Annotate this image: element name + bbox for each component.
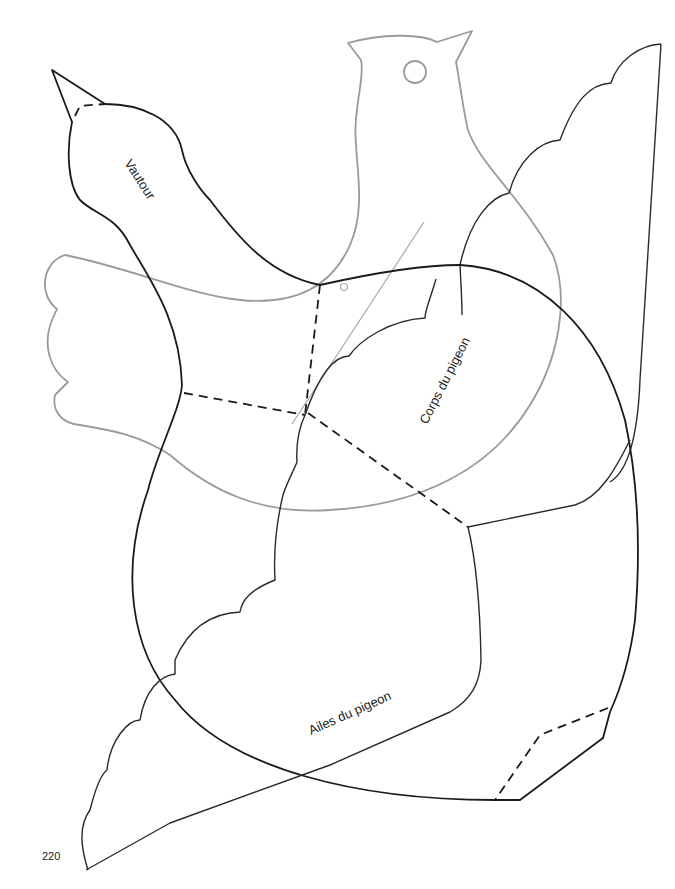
label-corps-du-pigeon: Corps du pigeon bbox=[416, 335, 473, 427]
ailes-du-pigeon-piece: Ailes du pigeon bbox=[82, 279, 436, 870]
eye-icon bbox=[404, 61, 426, 83]
vautour-piece: Vautour bbox=[52, 70, 495, 800]
label-ailes-du-pigeon: Ailes du pigeon bbox=[306, 688, 393, 738]
page-number: 220 bbox=[42, 850, 60, 862]
pattern-sheet: Vautour Corps du pigeon Ailes du pigeon … bbox=[0, 0, 675, 889]
gray-pigeon-outline bbox=[45, 31, 561, 511]
right-wing-outline bbox=[460, 44, 661, 482]
corps-du-pigeon-piece: Corps du pigeon bbox=[86, 265, 638, 870]
label-vautour: Vautour bbox=[121, 156, 158, 202]
guide-line bbox=[292, 222, 424, 424]
small-circle-mark bbox=[341, 284, 348, 291]
